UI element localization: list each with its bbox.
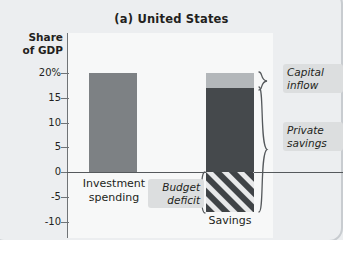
bar-segment-capital-inflow xyxy=(206,73,254,88)
x-label-savings: Savings xyxy=(196,214,264,228)
y-tick-mark-20 xyxy=(61,73,69,74)
y-axis-label: Share of GDP xyxy=(2,31,63,57)
chart-title: (a) United States xyxy=(0,12,343,26)
y-tick-label-5: 5 xyxy=(21,141,61,152)
x-label-investment-line2: spending xyxy=(78,191,150,205)
y-tick-label-15: 15 xyxy=(21,92,61,103)
figure-panel: (a) United States Share of GDP 20% 15 10… xyxy=(0,0,343,262)
y-axis-label-line1: Share xyxy=(2,31,63,44)
bar-segment-budget-deficit xyxy=(206,172,254,212)
annotation-budget-deficit: Budget deficit xyxy=(148,179,204,208)
x-label-investment-line1: Investment xyxy=(78,177,150,191)
y-axis-line xyxy=(67,33,68,238)
annotation-budget-deficit-line2: deficit xyxy=(152,194,200,207)
y-tick-mark-15 xyxy=(61,98,69,99)
brace-private-savings-icon xyxy=(258,86,270,217)
bar-investment-spending xyxy=(89,73,137,172)
x-label-investment-spending: Investment spending xyxy=(78,177,150,204)
annotation-private-savings: Private savings xyxy=(283,122,343,151)
annotation-budget-deficit-line1: Budget xyxy=(152,181,200,194)
annotation-capital-inflow-line2: inflow xyxy=(287,79,339,92)
y-tick-label-0: 0 xyxy=(21,166,61,177)
y-tick-label-10: 10 xyxy=(21,117,61,128)
annotation-private-savings-line2: savings xyxy=(287,137,339,150)
y-tick-mark-5 xyxy=(61,147,69,148)
y-tick-label-20: 20% xyxy=(21,67,61,78)
y-axis-label-line2: of GDP xyxy=(2,44,63,57)
y-tick-label-minus5: -5 xyxy=(21,191,61,202)
y-tick-mark-minus5 xyxy=(61,197,69,198)
y-tick-label-minus10: -10 xyxy=(21,216,61,227)
annotation-private-savings-line1: Private xyxy=(287,124,339,137)
bar-segment-private-savings xyxy=(206,88,254,172)
y-tick-mark-minus10 xyxy=(61,222,69,223)
annotation-capital-inflow: Capital inflow xyxy=(283,64,343,93)
annotation-capital-inflow-line1: Capital xyxy=(287,66,339,79)
y-tick-mark-10 xyxy=(61,123,69,124)
diagonal-hatch-pattern xyxy=(206,172,254,212)
figure-bottom-margin xyxy=(0,240,343,262)
